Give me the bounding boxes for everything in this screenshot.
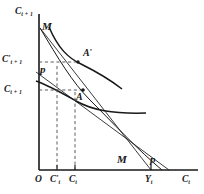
curve-label-p-top: p [40, 64, 46, 75]
x-tick-label-y-t: Yt [145, 175, 153, 185]
point-label-a-prime: A' [83, 48, 92, 58]
curve-label-p-bottom: p [150, 154, 156, 165]
y-tick-label-c-prime-t-plus-1: C't + 1 [2, 55, 22, 65]
x-tick-label-c-t: Ct [69, 175, 77, 185]
point-marker-a-prime [76, 60, 79, 63]
x-axis-title: Ct [182, 175, 190, 185]
curve-label-m-top: M [42, 21, 52, 32]
transformation-frontier-curve [40, 28, 162, 170]
indifference-curve-lower [36, 81, 146, 113]
point-label-a: A [76, 92, 83, 102]
indifference-curve-upper [49, 27, 122, 89]
origin-label: O [35, 175, 42, 185]
y-axis-title: Ct + 1 [15, 7, 33, 17]
curve-label-m-bottom: M [117, 154, 127, 165]
indifference-curve-figure: Ct + 1 C't + 1 Ct + 1 M p A' A M p O C't… [0, 0, 204, 194]
diagram-canvas [0, 0, 204, 194]
x-tick-label-c-prime-t: C't [50, 175, 60, 185]
y-tick-label-c-t-plus-1: Ct + 1 [4, 85, 22, 95]
